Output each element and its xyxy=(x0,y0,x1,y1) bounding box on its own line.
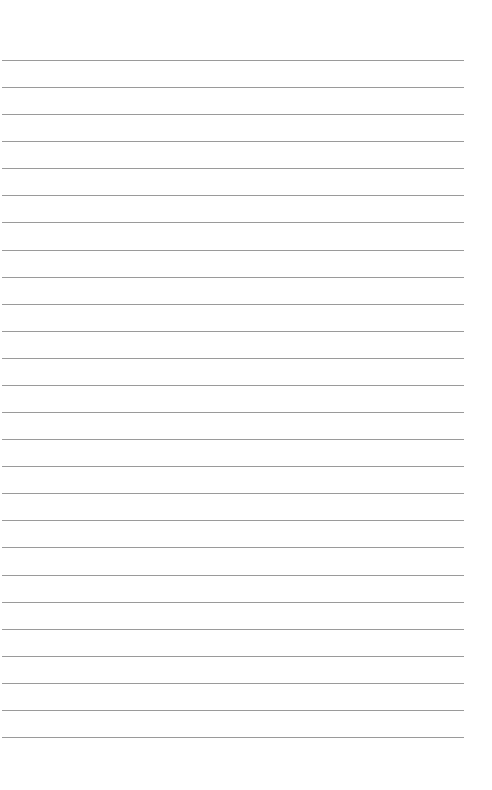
ruled-line xyxy=(2,629,464,630)
ruled-line xyxy=(2,547,464,548)
ruled-line xyxy=(2,114,464,115)
ruled-line xyxy=(2,331,464,332)
ruled-line xyxy=(2,87,464,88)
ruled-line xyxy=(2,222,464,223)
ruled-line xyxy=(2,60,464,61)
ruled-line xyxy=(2,520,464,521)
ruled-line xyxy=(2,195,464,196)
ruled-line xyxy=(2,277,464,278)
ruled-line xyxy=(2,656,464,657)
ruled-line xyxy=(2,141,464,142)
ruled-line xyxy=(2,683,464,684)
ruled-line xyxy=(2,737,464,738)
ruled-line xyxy=(2,168,464,169)
ruled-line xyxy=(2,385,464,386)
ruled-line xyxy=(2,466,464,467)
ruled-line xyxy=(2,710,464,711)
ruled-line xyxy=(2,493,464,494)
ruled-line xyxy=(2,250,464,251)
ruled-line xyxy=(2,412,464,413)
ruled-line xyxy=(2,575,464,576)
ruled-line xyxy=(2,439,464,440)
ruled-line xyxy=(2,358,464,359)
lined-paper-page xyxy=(0,0,492,790)
ruled-line xyxy=(2,304,464,305)
ruled-line xyxy=(2,602,464,603)
